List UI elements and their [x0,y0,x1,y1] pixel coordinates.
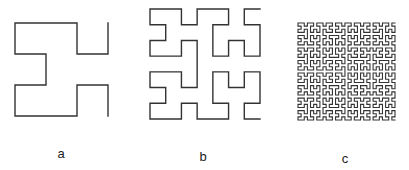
hilbert-curve-order-5 [298,23,395,120]
hilbert-figure [0,0,409,170]
hilbert-curve-order-3 [150,9,260,119]
hilbert-curve-order-2 [15,23,108,116]
panel-label-b: b [199,150,206,163]
panel-label-c: c [342,152,349,165]
panel-label-a: a [57,147,64,160]
